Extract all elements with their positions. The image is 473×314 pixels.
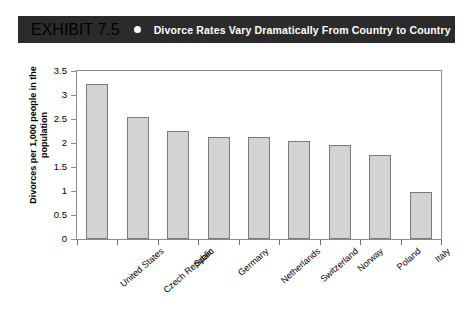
x-axis-tick-mark <box>239 240 240 245</box>
bar-poland <box>369 155 391 239</box>
y-axis-ticks: 00.511.522.533.5 <box>0 70 76 240</box>
bar-united-states <box>86 84 108 239</box>
bar-chart: Divorces per 1,000 people in the populat… <box>0 48 473 314</box>
x-axis-label: Poland <box>395 246 423 272</box>
bar-slot <box>279 71 319 239</box>
y-axis-tick-label: 1.5 <box>54 161 67 172</box>
x-axis-tick-mark <box>279 240 280 245</box>
bar-slot <box>401 71 441 239</box>
y-axis-tick-label: 1 <box>62 185 67 196</box>
x-axis-labels: United StatesCzech RepublicSpainGermanyN… <box>77 246 441 312</box>
bar-slot <box>158 71 198 239</box>
bar-slot <box>198 71 238 239</box>
y-axis-tick-label: 0 <box>62 233 67 244</box>
y-axis-tick-label: 3.5 <box>54 65 67 76</box>
x-axis-label: United States <box>118 246 165 289</box>
bar-slot <box>239 71 279 239</box>
x-axis-tick-mark <box>158 240 159 245</box>
bullet-dot-icon <box>134 26 141 33</box>
y-axis-tick-label: 2 <box>62 137 67 148</box>
bar-italy <box>410 192 432 239</box>
bar-norway <box>329 145 351 239</box>
x-axis-tick-mark <box>441 240 442 245</box>
x-axis-label: Norway <box>355 246 385 274</box>
bar-spain <box>167 131 189 239</box>
bar-slot <box>320 71 360 239</box>
bar-netherlands <box>248 137 270 239</box>
x-axis-tick-mark <box>77 240 78 245</box>
bar-germany <box>208 137 230 239</box>
exhibit-number: EXHIBIT 7.5 <box>31 21 120 39</box>
bar-czech-republic <box>127 117 149 239</box>
bar-switzerland <box>288 141 310 239</box>
exhibit-title: Divorce Rates Vary Dramatically From Cou… <box>154 24 451 36</box>
x-axis-tick-mark <box>117 240 118 245</box>
x-axis-ticks <box>77 240 441 245</box>
x-axis-tick-mark <box>401 240 402 245</box>
x-axis-label: Switzerland <box>319 246 361 284</box>
exhibit-header: EXHIBIT 7.5 Divorce Rates Vary Dramatica… <box>18 16 455 43</box>
x-axis-label: Germany <box>236 246 270 278</box>
bars-layer <box>77 71 441 239</box>
x-axis-label: Spain <box>192 246 216 269</box>
x-axis-tick-mark <box>198 240 199 245</box>
y-axis-tick-label: 2.5 <box>54 113 67 124</box>
x-axis-label: Italy <box>433 246 452 264</box>
x-axis-tick-mark <box>320 240 321 245</box>
y-axis-tick-label: 3 <box>62 89 67 100</box>
bar-slot <box>117 71 157 239</box>
bar-slot <box>77 71 117 239</box>
x-axis-label: Netherlands <box>279 246 322 285</box>
y-axis-tick-label: 0.5 <box>54 209 67 220</box>
bar-slot <box>360 71 400 239</box>
x-axis-tick-mark <box>360 240 361 245</box>
